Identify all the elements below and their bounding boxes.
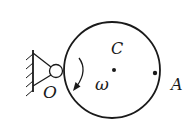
label-C: C bbox=[111, 39, 123, 58]
label-omega: ω bbox=[95, 74, 109, 94]
label-O: O bbox=[43, 82, 57, 102]
rotating-disk-diagram: C A O ω bbox=[0, 0, 191, 135]
center-point-C bbox=[112, 68, 116, 72]
fixed-wall-support bbox=[26, 50, 33, 96]
rim-point-A bbox=[153, 71, 157, 75]
pivot-pin-O bbox=[50, 65, 63, 78]
label-A: A bbox=[169, 75, 183, 94]
rotation-arrow-icon bbox=[73, 58, 83, 91]
